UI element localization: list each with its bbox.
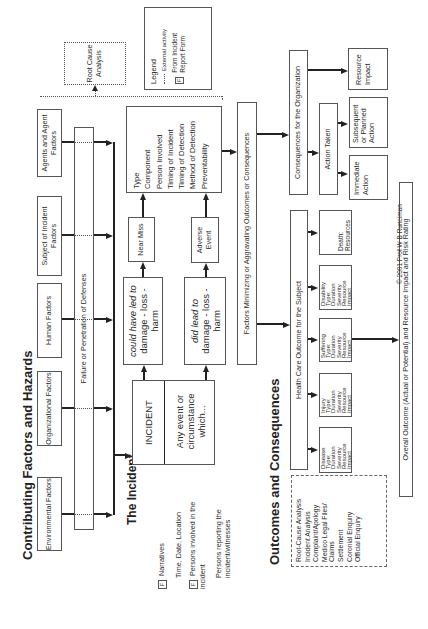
consequences-org-box: Consequences for the Organization — [289, 50, 308, 195]
injury-outcome-box: InjuryType:DurationSeverityResourceImpac… — [319, 373, 352, 417]
form-marker-icon: F — [189, 580, 198, 589]
arrow-icon — [141, 365, 147, 372]
external-activity-line — [222, 96, 223, 100]
activity-item: Coronial Enquiry — [346, 480, 355, 562]
activity-item: Incident Analysis — [304, 480, 313, 562]
arrow-icon — [311, 447, 318, 453]
connector-line — [142, 200, 144, 217]
external-activity-line — [95, 91, 96, 97]
arrow-icon — [106, 140, 113, 146]
connector-line — [62, 514, 74, 516]
connector-line — [94, 408, 106, 410]
legend-title: Legend — [149, 13, 159, 84]
could-have-led-box: could have led to damage - loss - harm — [123, 277, 163, 365]
arrow-icon — [311, 230, 318, 236]
arrow-icon — [92, 85, 98, 91]
connector-line — [74, 408, 94, 409]
form-marker-icon: F — [175, 77, 184, 84]
arrow-icon — [282, 132, 289, 138]
connector-line — [257, 324, 283, 326]
connector-line — [94, 319, 106, 321]
activity-item: Root-Cause Analysis — [295, 480, 304, 562]
subject-factors-box: Subject of Incident Factors — [37, 196, 62, 276]
arrow-icon — [125, 453, 132, 459]
connector-line — [205, 270, 207, 277]
incident-definition: Any event or circumstance which... — [165, 385, 215, 458]
attr-type: Type — [131, 110, 142, 189]
connector-line — [74, 235, 94, 236]
arrow-icon — [106, 317, 113, 323]
copyright: © 2001 Prof W B Runciman — [396, 204, 403, 284]
arrow-icon — [341, 121, 348, 127]
incident-attributes-box: Type Component Person Involved Timing of… — [126, 106, 222, 193]
subsequent-action-box: Subsequent or Planned Action — [349, 97, 388, 148]
connector-line — [74, 142, 94, 143]
note-time-date: Time, Date, Location — [174, 512, 183, 578]
connector-line — [94, 235, 106, 237]
legend-box: Legend External activity FFrom Incident … — [144, 7, 212, 90]
arrow-icon — [341, 171, 348, 177]
arrow-icon — [311, 337, 318, 343]
connector-line — [222, 151, 230, 153]
arrow-icon — [106, 512, 113, 518]
external-activity-line — [40, 96, 222, 97]
attr-component: Component — [142, 110, 153, 189]
resource-impact-box: Resource Impact — [348, 48, 388, 90]
form-marker-icon: F — [158, 580, 167, 589]
external-activities-list: Root-Cause Analysis Incident Analysis Co… — [291, 475, 387, 567]
connector-line — [113, 455, 125, 457]
incident-model-diagram: Contributing Factors and Hazards The Inc… — [0, 0, 428, 629]
arrow-icon — [140, 262, 146, 269]
adverse-event-box: Adverse Event — [191, 217, 219, 263]
factors-minimizing-box: Factors Minimizing or Aggravating Outcom… — [237, 102, 257, 365]
arrow-icon — [203, 193, 209, 200]
arrow-icon — [312, 150, 319, 156]
connector-line — [62, 235, 74, 237]
arrow-icon — [392, 337, 399, 343]
connector-line — [94, 142, 106, 144]
connector-line — [62, 142, 74, 144]
incident-box: INCIDENT Any event or circumstance which… — [132, 380, 215, 465]
disease-outcome-box: DiseaseType:DurationSeverityResourceImpa… — [319, 427, 352, 473]
agent-factors-box: Agents and Agent Factors — [37, 109, 62, 177]
connector-line — [62, 408, 74, 410]
suffering-outcome-box: SufferingType:DurationSeverityResourceIm… — [319, 318, 352, 362]
disability-outcome-box: DisabilityType:DurationSeverityResourceI… — [319, 265, 352, 310]
connector-line — [62, 319, 74, 321]
death-outcome-box: Death:Resources — [319, 210, 352, 255]
activity-item: Claims — [328, 480, 337, 562]
arrow-icon — [203, 365, 209, 372]
arrow-icon — [106, 406, 113, 412]
attr-person: Person Involved — [154, 110, 165, 189]
connector-line — [308, 70, 342, 72]
legend-external: External activity — [159, 13, 169, 84]
arrow-icon — [311, 285, 318, 291]
immediate-action-box: Immediate Action — [349, 155, 388, 200]
near-miss-box: Near Miss — [128, 217, 155, 262]
connector-line — [352, 339, 393, 341]
bus-line — [113, 142, 115, 515]
attr-timing-detection: Timing of Detection — [176, 110, 187, 189]
connector-line — [143, 372, 145, 380]
human-factors-box: Human Factors — [37, 283, 62, 358]
attr-method-detection: Method of Detection — [187, 110, 198, 189]
connector-line — [142, 269, 144, 277]
arrow-icon — [341, 68, 348, 74]
environmental-factors-box: Environmental Factors — [37, 477, 62, 551]
note-narratives: FNarratives — [157, 543, 167, 589]
connector-line — [205, 372, 207, 380]
action-taken-box: Action Taken — [319, 103, 338, 195]
note-persons-reporting: Persons reporting the incident/witnesses — [214, 478, 232, 578]
connector-line — [94, 514, 106, 516]
incident-label: INCIDENT — [133, 381, 164, 464]
title-contributing-factors: Contributing Factors and Hazards — [20, 351, 35, 560]
did-lead-box: did lead to damage - loss - harm — [184, 277, 226, 365]
title-outcomes: Outcomes and Consequences — [267, 379, 282, 565]
arrow-icon — [203, 263, 209, 270]
activity-item: Settlement — [337, 480, 346, 562]
legend-form: FFrom Incident Report Form — [171, 13, 187, 84]
connector-line — [74, 319, 94, 320]
failure-of-defenses-bar: Failure or Penetration of Defenses — [74, 127, 94, 530]
activity-item: Official Enquiry — [354, 480, 363, 562]
arrow-icon — [140, 193, 146, 200]
